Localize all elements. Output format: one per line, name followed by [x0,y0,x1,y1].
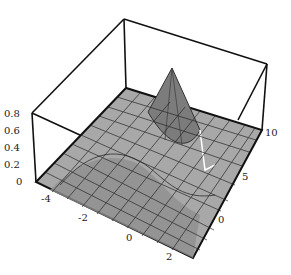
svg-text:0.4: 0.4 [4,142,20,153]
svg-text:-2: -2 [78,212,88,223]
svg-text:0.8: 0.8 [4,108,20,119]
surface [36,68,262,258]
svg-text:0.2: 0.2 [4,159,20,170]
svg-text:2: 2 [166,251,172,262]
svg-text:0.6: 0.6 [4,125,20,136]
svg-text:0: 0 [218,214,224,225]
surface-plot: 0.8 0.6 0.4 0.2 0 -4 -2 0 2 0 5 10 [0,0,291,275]
z-axis: 0.8 0.6 0.4 0.2 0 [4,108,22,187]
svg-text:0: 0 [126,232,132,243]
svg-text:5: 5 [242,171,248,182]
svg-text:10: 10 [265,127,278,138]
svg-text:0: 0 [16,176,22,187]
svg-text:-4: -4 [41,193,51,204]
